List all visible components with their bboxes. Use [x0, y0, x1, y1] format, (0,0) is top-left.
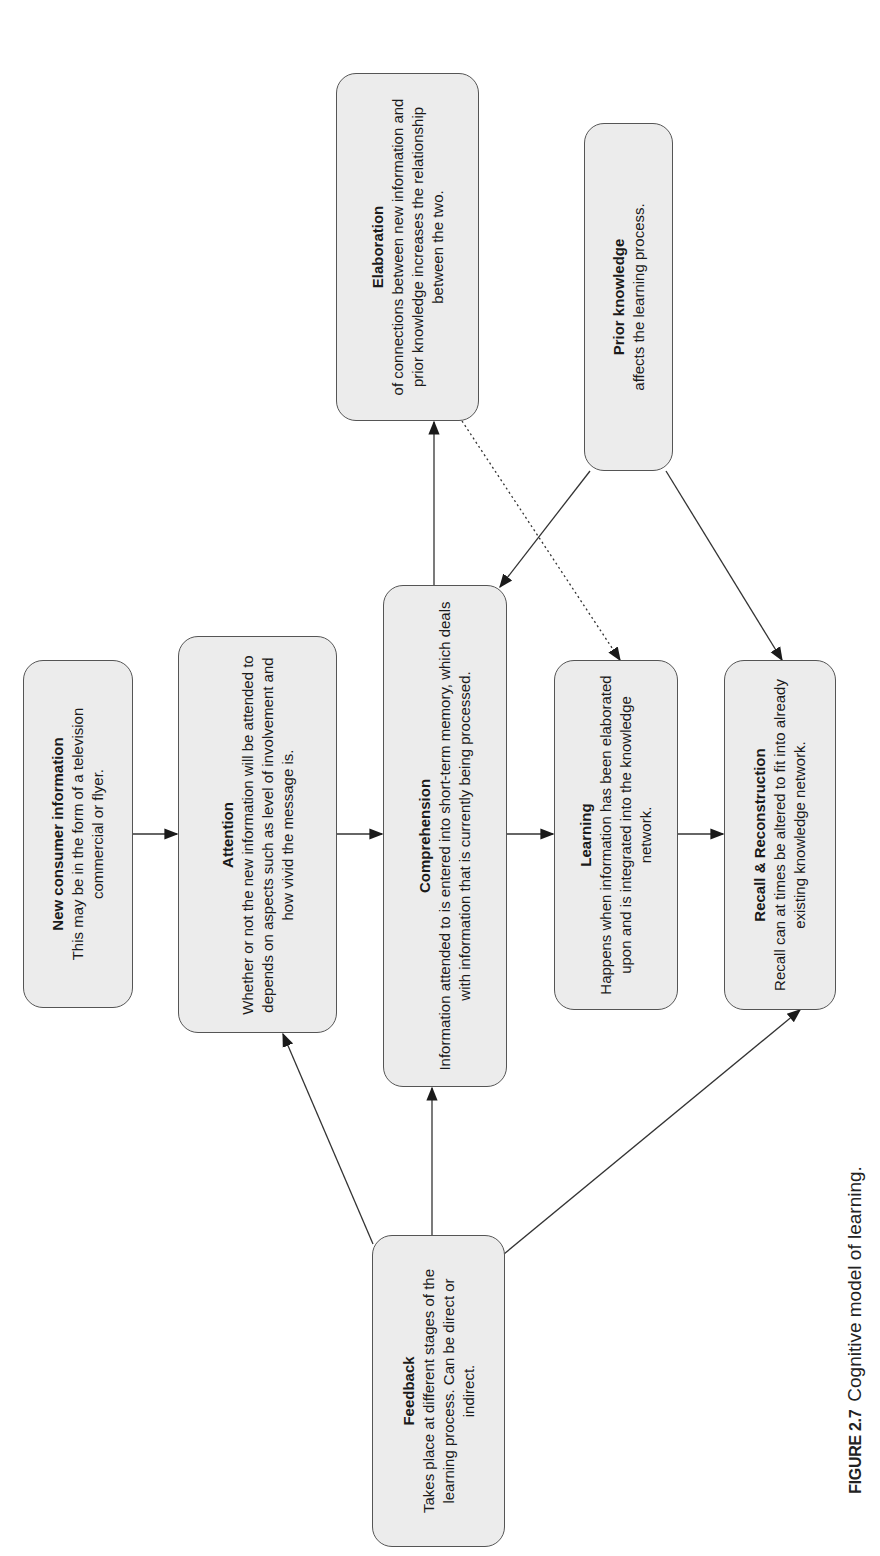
arrow-prior-to-recall: [666, 471, 782, 660]
figure-caption-text: Cognitive model of learning.: [844, 1166, 865, 1402]
node-body: Whether or not the new information will …: [238, 652, 298, 1017]
arrow-feedback-to-attention: [283, 1034, 373, 1244]
node-body: Happens when information has been elabor…: [596, 675, 656, 995]
arrow-prior-to-comprehension: [500, 471, 590, 587]
node-title: Recall & Reconstruction: [750, 675, 770, 995]
node-attention: Attention Whether or not the new informa…: [178, 636, 337, 1033]
node-title: Attention: [218, 652, 238, 1017]
node-body: Information attended to is entered into …: [435, 601, 475, 1071]
node-prior-knowledge: Prior knowledge affects the learning pro…: [584, 123, 673, 471]
node-feedback: Feedback Takes place at different stages…: [372, 1235, 505, 1547]
node-recall-reconstruction: Recall & Reconstruction Recall can at ti…: [724, 660, 836, 1010]
node-learning: Learning Happens when information has be…: [554, 660, 678, 1010]
node-title: Learning: [576, 675, 596, 995]
node-body: of connections between new information a…: [388, 85, 448, 410]
node-title: Prior knowledge: [609, 137, 629, 457]
node-comprehension: Comprehension Information attended to is…: [383, 585, 507, 1087]
node-title: Elaboration: [368, 85, 388, 410]
node-body: Recall can at times be altered to fit in…: [770, 675, 810, 995]
node-body: Takes place at different stages of the l…: [419, 1251, 479, 1531]
node-title: New consumer information: [48, 674, 68, 994]
figure-caption: FIGURE 2.7Cognitive model of learning.: [844, 1166, 866, 1494]
node-body: This may be in the form of a television …: [68, 674, 108, 994]
arrow-feedback-to-recall: [504, 1010, 800, 1254]
node-body: affects the learning process.: [629, 137, 649, 457]
cognitive-learning-diagram: New consumer information This may be in …: [0, 0, 880, 1556]
node-title: Comprehension: [415, 601, 435, 1071]
node-elaboration: Elaboration of connections between new i…: [336, 73, 479, 421]
node-title: Feedback: [399, 1251, 419, 1531]
figure-label: FIGURE 2.7: [847, 1410, 864, 1494]
node-new-consumer-information: New consumer information This may be in …: [23, 660, 133, 1008]
